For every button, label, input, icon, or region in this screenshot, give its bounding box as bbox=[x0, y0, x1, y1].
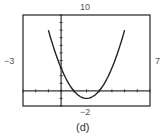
window-frame bbox=[23, 15, 150, 106]
parabola-curve bbox=[48, 30, 124, 98]
axes bbox=[23, 15, 150, 106]
graph-window bbox=[0, 0, 165, 140]
figure-caption: (d) bbox=[76, 121, 89, 133]
